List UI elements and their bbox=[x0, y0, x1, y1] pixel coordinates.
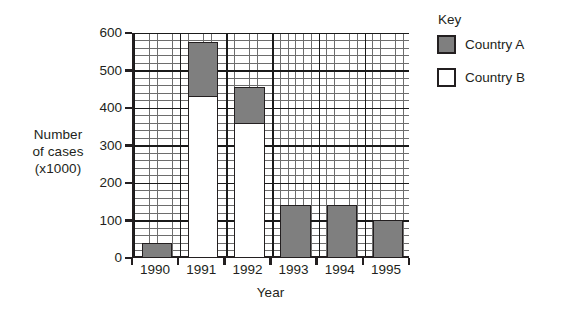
legend-swatch bbox=[437, 68, 456, 87]
y-axis-title-line-3: (x1000) bbox=[8, 160, 108, 177]
y-tick-mark bbox=[125, 219, 132, 222]
legend-label: Country B bbox=[465, 70, 525, 85]
x-tick-label: 1993 bbox=[271, 263, 317, 277]
bar-stack[interactable] bbox=[188, 42, 218, 256]
legend-entry[interactable]: Country A bbox=[437, 35, 567, 54]
x-tick-mark bbox=[315, 258, 318, 265]
x-tick-label: 1992 bbox=[224, 263, 270, 277]
legend-entry[interactable]: Country B bbox=[437, 68, 567, 87]
legend-label: Country A bbox=[465, 37, 524, 52]
y-tick-label: 600 bbox=[84, 26, 122, 40]
major-horizontal-gridlines bbox=[134, 33, 409, 256]
minor-horizontal-gridlines bbox=[134, 33, 409, 256]
y-tick-mark bbox=[125, 144, 132, 147]
x-tick-mark bbox=[223, 258, 226, 265]
y-tick-label: 500 bbox=[84, 64, 122, 78]
bar-segment-country-a[interactable] bbox=[142, 243, 172, 258]
bar-segment-country-b[interactable] bbox=[234, 123, 264, 258]
minor-vertical-gridlines bbox=[134, 33, 409, 256]
bar-segment-country-a[interactable] bbox=[234, 87, 264, 125]
bar-stack[interactable] bbox=[373, 220, 403, 256]
legend-entries: Country ACountry B bbox=[437, 35, 567, 87]
x-axis-title: Year bbox=[132, 285, 409, 300]
bar-stack[interactable] bbox=[142, 243, 172, 256]
x-tick-mark bbox=[131, 258, 134, 265]
plot-area bbox=[132, 33, 409, 258]
x-tick-mark bbox=[362, 258, 365, 265]
bar-segment-country-a[interactable] bbox=[188, 42, 218, 98]
y-tick-label: 200 bbox=[84, 176, 122, 190]
y-tick-mark bbox=[125, 107, 132, 110]
legend-swatch bbox=[437, 35, 456, 54]
bar-chart-figure: Number of cases (x1000) 0100200300400500… bbox=[0, 0, 573, 314]
x-tick-label: 1991 bbox=[178, 263, 224, 277]
bar-segment-country-b[interactable] bbox=[188, 96, 218, 257]
bar-stack[interactable] bbox=[234, 87, 264, 256]
y-tick-label: 0 bbox=[84, 251, 122, 265]
y-tick-label: 300 bbox=[84, 139, 122, 153]
y-tick-mark bbox=[125, 182, 132, 185]
y-tick-label: 100 bbox=[84, 214, 122, 228]
x-tick-mark bbox=[177, 258, 180, 265]
bar-segment-country-a[interactable] bbox=[327, 205, 357, 258]
x-tick-label: 1994 bbox=[317, 263, 363, 277]
legend: Key Country ACountry B bbox=[437, 12, 567, 101]
x-tick-label: 1995 bbox=[363, 263, 409, 277]
legend-title: Key bbox=[437, 12, 567, 27]
major-vertical-gridlines bbox=[134, 33, 409, 256]
x-tick-mark bbox=[269, 258, 272, 265]
bar-segment-country-a[interactable] bbox=[280, 205, 310, 258]
x-tick-label: 1990 bbox=[132, 263, 178, 277]
y-tick-mark bbox=[125, 69, 132, 72]
x-tick-mark bbox=[408, 258, 411, 265]
bar-stack[interactable] bbox=[327, 205, 357, 256]
y-tick-label: 400 bbox=[84, 101, 122, 115]
y-tick-mark bbox=[125, 32, 132, 35]
bar-stack[interactable] bbox=[280, 205, 310, 256]
bar-segment-country-a[interactable] bbox=[373, 220, 403, 258]
